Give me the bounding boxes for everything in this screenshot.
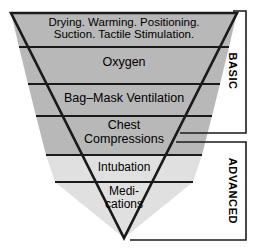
band-shape-chest-compressions [36,116,212,155]
band-shape-intubation [46,155,202,182]
bracket-label-basic: BASIC [227,31,239,111]
band-shape-oxygen [19,47,229,84]
bracket-label-advanced: ADVANCED [227,141,239,241]
band-shape-medications [55,182,193,238]
band-shape-bag-mask-ventilation [28,84,220,116]
band-shape-initial-steps [11,13,237,47]
inverted-pyramid-diagram: Drying. Warming. Positioning. Suction. T… [0,0,259,249]
pyramid-graphic [0,0,259,249]
